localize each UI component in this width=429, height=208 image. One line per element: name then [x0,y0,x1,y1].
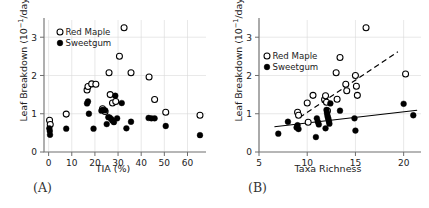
panel-b-tag: (B) [248,180,267,195]
svg-text:Red Maple: Red Maple [66,27,111,37]
svg-text:3: 3 [31,33,37,43]
panel-b-x-axis-label: Taxa Richness [253,163,403,174]
figure-container: Leaf Breakdown (10−1/day) 01230102030405… [0,0,429,208]
svg-text:Sweetgum: Sweetgum [66,38,112,48]
panel-a-y-axis-label: Leaf Breakdown (10−1/day) [17,0,29,123]
panel-b-y-axis-label: Leaf Breakdown (10−1/day) [232,0,244,123]
svg-text:Sweetgum: Sweetgum [273,62,319,72]
svg-text:0: 0 [31,147,37,157]
svg-text:Red Maple: Red Maple [273,51,318,61]
svg-text:2: 2 [246,71,252,81]
svg-text:1: 1 [31,109,37,119]
panel-b: Leaf Breakdown (10−1/day) 01235101520Red… [215,0,429,208]
svg-text:3: 3 [246,33,252,43]
svg-text:0: 0 [246,147,252,157]
panel-a-tag: (A) [33,180,52,195]
panel-a-x-axis-label: TIA (%) [38,163,188,174]
panel-a: Leaf Breakdown (10−1/day) 01230102030405… [0,0,214,208]
svg-text:2: 2 [31,71,37,81]
svg-text:1: 1 [246,109,252,119]
